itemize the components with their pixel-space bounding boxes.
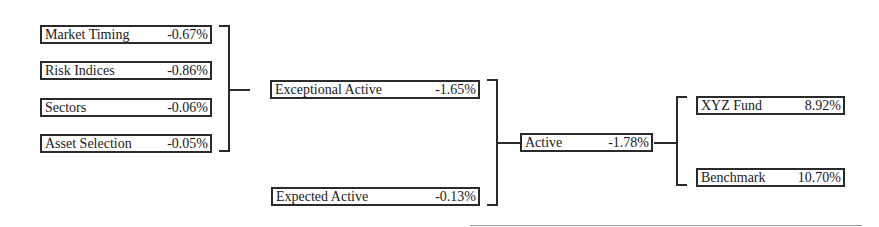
sectors-box: Sectors -0.06%	[40, 98, 212, 117]
market-timing-value: -0.67%	[167, 28, 208, 42]
active-box: Active -1.78%	[520, 133, 653, 152]
benchmark-box: Benchmark 10.70%	[696, 168, 845, 187]
sectors-value: -0.06%	[167, 101, 208, 115]
xyz-fund-value: 8.92%	[805, 99, 841, 113]
benchmark-label: Benchmark	[701, 171, 766, 185]
exceptional-active-label: Exceptional Active	[275, 83, 382, 97]
xyz-fund-label: XYZ Fund	[701, 99, 762, 113]
expected-active-label: Expected Active	[276, 190, 368, 204]
asset-selection-value: -0.05%	[167, 137, 208, 151]
expected-active-value: -0.13%	[435, 190, 476, 204]
market-timing-label: Market Timing	[45, 28, 129, 42]
exceptional-active-box: Exceptional Active -1.65%	[270, 80, 480, 99]
benchmark-value: 10.70%	[798, 171, 841, 185]
sectors-label: Sectors	[45, 101, 86, 115]
active-label: Active	[525, 136, 562, 150]
expected-active-box: Expected Active -0.13%	[271, 187, 480, 206]
bottom-rule	[470, 225, 862, 226]
risk-indices-value: -0.86%	[167, 64, 208, 78]
exceptional-active-value: -1.65%	[435, 83, 476, 97]
market-timing-box: Market Timing -0.67%	[40, 25, 212, 44]
risk-indices-box: Risk Indices -0.86%	[40, 61, 212, 80]
asset-selection-label: Asset Selection	[45, 137, 132, 151]
active-value: -1.78%	[608, 136, 649, 150]
asset-selection-box: Asset Selection -0.05%	[40, 134, 212, 153]
xyz-fund-box: XYZ Fund 8.92%	[696, 96, 845, 115]
risk-indices-label: Risk Indices	[45, 64, 115, 78]
